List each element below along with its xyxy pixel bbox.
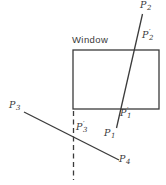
label-p4: P4 bbox=[119, 154, 130, 166]
line-clipping-diagram: Window P2P′2P′1P1P3P′3P4 bbox=[0, 0, 166, 185]
point-letter: P bbox=[76, 122, 82, 132]
label-p2: P2 bbox=[140, 0, 151, 12]
point-subscript: 3 bbox=[83, 127, 87, 134]
point-subscript: 1 bbox=[127, 113, 131, 120]
point-letter: P bbox=[104, 128, 110, 138]
point-script-stack: ′2 bbox=[149, 30, 153, 42]
window-label: Window bbox=[72, 34, 108, 45]
point-subscript: 2 bbox=[149, 35, 153, 42]
point-subscript: 3 bbox=[16, 105, 20, 112]
point-script-stack: 1 bbox=[111, 128, 115, 140]
point-subscript: 4 bbox=[126, 159, 130, 166]
point-letter: P bbox=[142, 30, 148, 40]
label-p2-prime: P′2 bbox=[142, 30, 153, 42]
label-p3-prime: P′3 bbox=[76, 122, 87, 134]
point-script-stack: ′1 bbox=[127, 108, 131, 120]
point-letter: P bbox=[9, 100, 15, 110]
point-letter: P bbox=[140, 0, 146, 10]
label-p1-prime: P′1 bbox=[120, 108, 131, 120]
point-subscript: 2 bbox=[147, 5, 151, 12]
point-script-stack: 3 bbox=[16, 100, 20, 112]
point-script-stack: ′3 bbox=[83, 122, 87, 134]
label-p3: P3 bbox=[9, 100, 20, 112]
diagram-canvas bbox=[0, 0, 166, 185]
clipping-window-rect bbox=[73, 50, 159, 109]
label-p1: P1 bbox=[104, 128, 115, 140]
point-letter: P bbox=[120, 108, 126, 118]
point-script-stack: 2 bbox=[147, 0, 151, 12]
point-subscript: 1 bbox=[111, 133, 115, 140]
point-letter: P bbox=[119, 154, 125, 164]
point-script-stack: 4 bbox=[126, 154, 130, 166]
